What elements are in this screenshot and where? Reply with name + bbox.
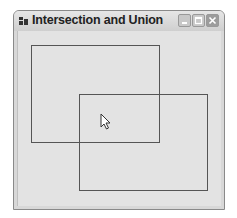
close-icon bbox=[207, 15, 218, 26]
window-title: Intersection and Union bbox=[32, 13, 163, 27]
arrow-cursor-icon bbox=[100, 113, 112, 131]
rectangle-2 bbox=[79, 94, 208, 191]
close-button[interactable] bbox=[206, 14, 219, 27]
maximize-icon bbox=[193, 15, 204, 26]
minimize-button[interactable] bbox=[178, 14, 191, 27]
title-bar[interactable]: Intersection and Union bbox=[14, 11, 224, 31]
app-window-icon bbox=[19, 17, 28, 25]
minimize-icon bbox=[179, 15, 190, 26]
maximize-button[interactable] bbox=[192, 14, 205, 27]
